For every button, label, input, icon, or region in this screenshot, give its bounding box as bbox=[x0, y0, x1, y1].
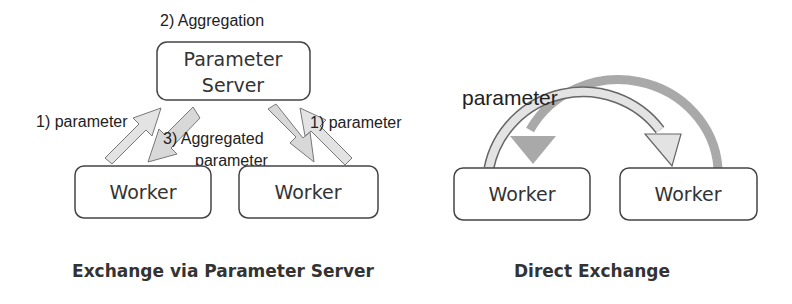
worker-box-left-1: Worker bbox=[75, 166, 211, 218]
parameter-label-right: 1) parameter bbox=[310, 114, 402, 131]
parameter-label-left: 1) parameter bbox=[36, 113, 128, 130]
direct-exchange-diagram: parameter Worker Worker Direct Exchange bbox=[454, 80, 757, 281]
parameter-server-box: Parameter Server bbox=[157, 42, 310, 100]
right-caption: Direct Exchange bbox=[514, 261, 670, 281]
worker-label: Worker bbox=[275, 181, 342, 203]
aggregated-label-line1: 3) Aggregated bbox=[163, 130, 264, 147]
server-label-line1: Parameter bbox=[184, 48, 283, 70]
aggregation-label: 2) Aggregation bbox=[160, 12, 264, 29]
worker-box-left-2: Worker bbox=[239, 166, 378, 218]
worker-label: Worker bbox=[110, 181, 177, 203]
worker-box-right-1: Worker bbox=[454, 168, 590, 220]
worker-label: Worker bbox=[489, 183, 556, 205]
diagram-canvas: 2) Aggregation Parameter Server 1) param… bbox=[0, 0, 792, 304]
worker-label: Worker bbox=[655, 183, 722, 205]
server-label-line2: Server bbox=[202, 74, 264, 96]
parameter-server-diagram: 2) Aggregation Parameter Server 1) param… bbox=[36, 12, 402, 281]
worker-box-right-2: Worker bbox=[620, 168, 757, 220]
left-caption: Exchange via Parameter Server bbox=[72, 261, 375, 281]
parameter-arc-label: parameter bbox=[462, 86, 558, 109]
